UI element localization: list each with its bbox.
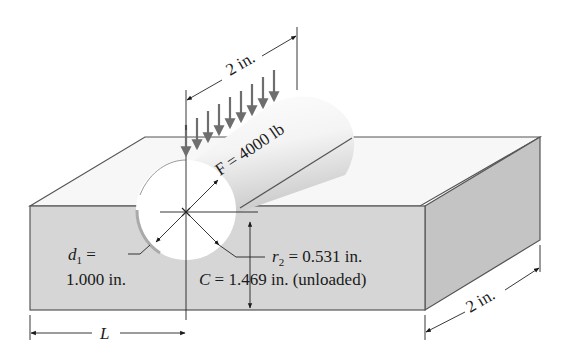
l-label: L — [99, 324, 109, 343]
d1-value: 1.000 in. — [66, 270, 126, 289]
d1-label: d1 = — [68, 245, 96, 266]
load-span-label: 2 in. — [223, 48, 259, 80]
depth-dimension-left — [426, 312, 465, 332]
span-dimension-right — [262, 36, 296, 56]
c-label: C = 1.469 in. (unloaded) — [199, 270, 366, 289]
span-dimension-left — [187, 80, 222, 100]
depth-label: 2 in. — [463, 285, 499, 317]
diagram-canvas: 2 in. C F = 4000 lb d1 = 1.000 in. r2 = … — [0, 0, 565, 359]
r2-label: r2 = 0.531 in. — [272, 247, 362, 268]
depth-dimension-right — [505, 268, 539, 290]
